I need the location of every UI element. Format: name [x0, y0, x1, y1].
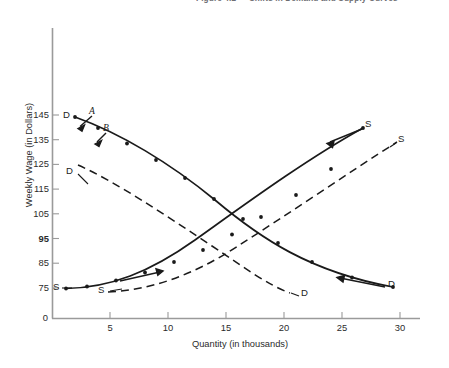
curve-supply-shifted	[108, 142, 397, 292]
curve-demand-original	[73, 115, 395, 289]
curve-label-demand-shifted-end: D	[301, 288, 308, 298]
chart-canvas	[0, 0, 449, 368]
annotation-point-b: B	[103, 123, 109, 133]
leader-lines	[62, 116, 396, 296]
curve-label-supply-original-end: S	[365, 119, 371, 129]
curve-label-supply-shifted-start: S	[98, 285, 104, 295]
xtick-label-25: 25	[329, 323, 355, 333]
curve-label-demand-original-end: D	[388, 279, 395, 289]
ytick-label-85: 85	[21, 258, 49, 268]
xtick-label-5: 5	[97, 323, 123, 333]
annotation-point-a: A	[89, 106, 95, 116]
xtick-label-10: 10	[155, 323, 181, 333]
axis-origin-label: 0	[35, 312, 48, 323]
chart-plot-area: 145 135 125 115 105 95 85 75 0 5 10 15 2…	[0, 0, 449, 368]
axis-lines	[52, 28, 420, 319]
xtick-label-15: 15	[213, 323, 239, 333]
curve-label-supply-original-start: S	[53, 282, 59, 292]
ytick-label-75: 75	[21, 283, 49, 293]
curve-label-demand-original-start: D	[63, 110, 70, 120]
ytick-label-95: 95	[21, 234, 49, 244]
demand-original-markers	[73, 115, 395, 289]
curve-label-supply-shifted-end: S	[398, 134, 404, 144]
curve-label-demand-shifted-start: D	[66, 166, 73, 176]
curve-demand-shifted	[78, 165, 290, 293]
x-axis-title: Quantity (in thousands)	[140, 339, 340, 349]
y-axis-title: Weekly Wage (in Dollars)	[24, 75, 34, 235]
x-axis-ticks	[110, 312, 400, 318]
xtick-label-30: 30	[387, 323, 413, 333]
xtick-label-20: 20	[271, 323, 297, 333]
